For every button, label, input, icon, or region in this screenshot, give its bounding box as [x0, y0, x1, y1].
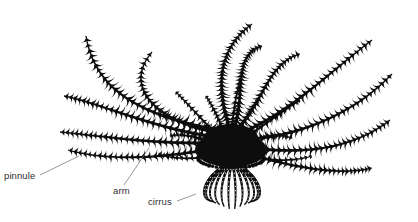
label-pinnule: pinnule	[4, 170, 35, 181]
leader-line-pinnule	[40, 156, 79, 175]
leader-line-cirrus	[177, 194, 196, 201]
crinoid-illustration: pinnule arm cirrus	[0, 0, 418, 222]
label-cirrus: cirrus	[148, 196, 172, 207]
label-arm: arm	[113, 185, 130, 196]
crinoid-figure: pinnule arm cirrus	[0, 0, 418, 222]
leader-line-arm	[124, 148, 149, 185]
